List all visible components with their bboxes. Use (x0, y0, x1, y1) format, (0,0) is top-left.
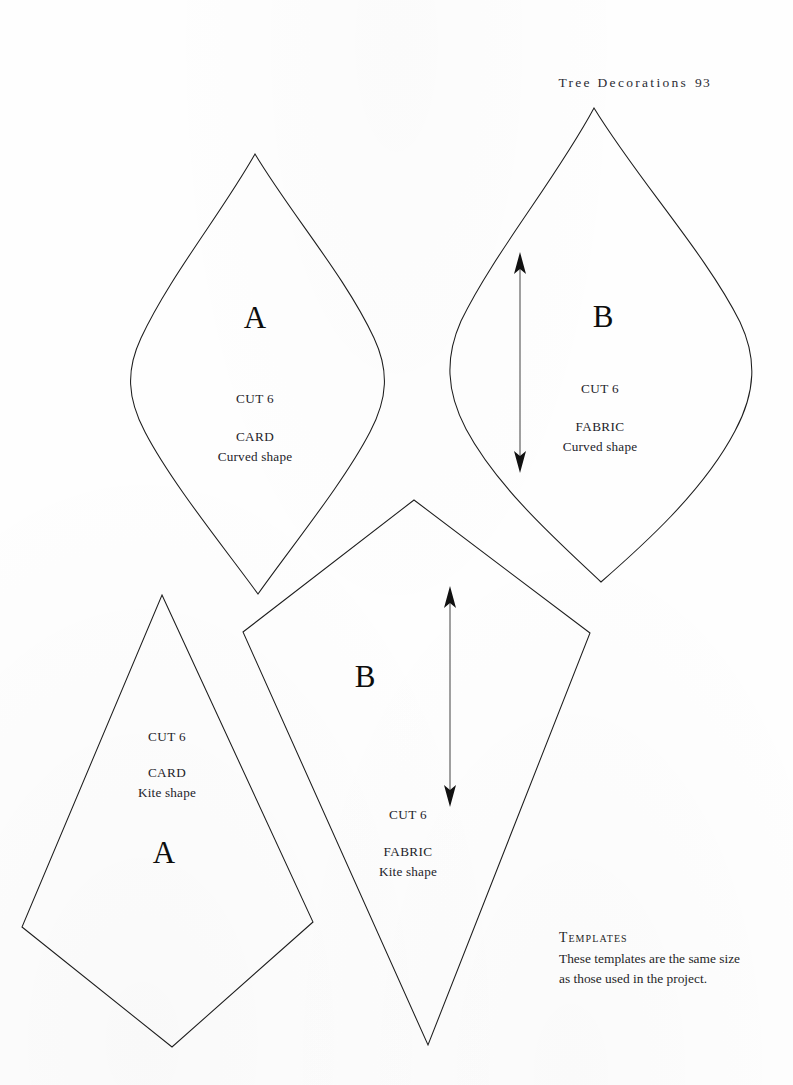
kite-shape-a-material: CARD (148, 766, 186, 779)
curved-shape-a-outline (131, 154, 385, 594)
curved-shape-b-shape-label: Curved shape (563, 440, 638, 453)
curved-shape-b-letter: B (593, 301, 614, 332)
curved-shape-a-cut: CUT 6 (236, 392, 274, 405)
kite-shape-a-letter: A (153, 837, 175, 868)
curved-shape-a-shape-label: Curved shape (218, 450, 293, 463)
kite-shape-b-shape-label: Kite shape (379, 865, 437, 878)
curved-shape-a-material: CARD (236, 430, 274, 443)
templates-caption-heading: Templates (559, 928, 749, 949)
book-page: Tree Decorations93 A CUT 6 CARD Curved s… (0, 0, 793, 1085)
grain-arrow-kite-b (444, 586, 456, 807)
running-head-title: Tree Decorations (558, 75, 688, 90)
kite-shape-b-outline (243, 500, 590, 1045)
kite-shape-b-material: FABRIC (384, 845, 433, 858)
curved-shape-b-material: FABRIC (576, 420, 625, 433)
kite-shape-b-letter: B (355, 661, 376, 692)
template-outlines (0, 0, 793, 1085)
curved-shape-a-letter: A (244, 302, 266, 333)
page-number: 93 (695, 75, 711, 90)
kite-shape-a-cut: CUT 6 (148, 730, 186, 743)
kite-shape-a-outline (22, 595, 313, 1047)
curved-shape-b-cut: CUT 6 (581, 382, 619, 395)
kite-shape-a-shape-label: Kite shape (138, 786, 196, 799)
running-head: Tree Decorations93 (558, 75, 711, 91)
curved-shape-b-outline (450, 108, 752, 582)
templates-caption-body: These templates are the same size as tho… (559, 951, 740, 986)
grain-arrow-curved-b (514, 252, 526, 473)
kite-shape-b-cut: CUT 6 (389, 808, 427, 821)
templates-caption: Templates These templates are the same s… (559, 928, 749, 989)
